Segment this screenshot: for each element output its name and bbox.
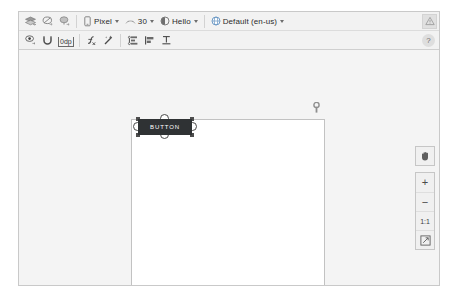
clear-constraints-icon[interactable] [83, 32, 100, 48]
chevron-down-icon [150, 20, 154, 23]
canvas-top-marker-glyph [312, 102, 321, 114]
toolbar-separator-4 [120, 34, 121, 47]
zoom-out-label: − [422, 197, 428, 208]
guidelines-icon[interactable] [124, 32, 141, 48]
infer-constraints-icon[interactable] [100, 32, 117, 48]
theme-selector[interactable]: Hello [157, 13, 201, 29]
magic-wand-glyph [102, 34, 115, 47]
orientation-glyph [58, 15, 71, 28]
clear-constraints-glyph [85, 34, 98, 47]
toolbar-separator-2 [204, 15, 205, 28]
baseline-icon[interactable] [158, 32, 175, 48]
button-widget-label: BUTTON [138, 119, 192, 135]
api-selector[interactable]: 30 [122, 13, 157, 29]
design-surface[interactable]: BUTTON + − 1:1 [19, 50, 439, 285]
constraint-toolbar: 0dp [19, 31, 439, 50]
zoom-controls: + − 1:1 [415, 146, 435, 250]
design-mode-glyph [24, 15, 37, 28]
warning-triangle-icon [425, 16, 435, 26]
api-level-icon [125, 17, 136, 26]
help-icon: ? [422, 34, 435, 47]
locale-selector-label: Default (en-us) [223, 17, 277, 26]
blueprint-mode-icon[interactable] [39, 13, 56, 29]
device-phone-icon [83, 16, 92, 27]
default-margin-label: 0dp [58, 37, 74, 47]
chevron-down-icon [194, 20, 198, 23]
device-selector-label: Pixel [94, 17, 112, 26]
show-constraints-glyph [24, 34, 37, 47]
canvas-top-marker [312, 100, 321, 112]
pan-hand-icon[interactable] [415, 146, 435, 166]
show-constraints-icon[interactable] [22, 32, 39, 48]
layout-editor-window: Pixel 30 Hello [18, 11, 440, 286]
autoconnect-icon[interactable] [39, 32, 56, 48]
zoom-button-stack: + − 1:1 [415, 172, 435, 250]
blueprint-mode-glyph [41, 15, 54, 28]
zoom-out-button[interactable]: − [416, 192, 434, 211]
toolbar-separator-1 [76, 15, 77, 28]
magnet-glyph [41, 34, 54, 47]
pan-hand-glyph [419, 150, 431, 162]
actual-size-button[interactable]: 1:1 [416, 211, 434, 230]
zoom-in-button[interactable]: + [416, 173, 434, 192]
zoom-in-label: + [422, 177, 428, 188]
primary-toolbar: Pixel 30 Hello [19, 12, 439, 31]
device-selector[interactable]: Pixel [80, 13, 122, 29]
warning-indicator[interactable] [422, 14, 437, 29]
theme-selector-label: Hello [172, 17, 191, 26]
chevron-down-icon [115, 20, 119, 23]
globe-icon [211, 16, 221, 26]
toolbar-separator-3 [79, 34, 80, 47]
default-margin-value[interactable]: 0dp [56, 32, 76, 48]
actual-size-label: 1:1 [420, 218, 430, 225]
design-mode-icon[interactable] [22, 13, 39, 29]
theme-icon [160, 16, 170, 26]
help-button[interactable]: ? [420, 32, 437, 48]
align-left-glyph [143, 34, 156, 47]
orientation-icon[interactable] [56, 13, 73, 29]
button-widget[interactable]: BUTTON [138, 119, 192, 135]
fit-to-screen-icon [420, 235, 431, 246]
locale-selector[interactable]: Default (en-us) [208, 13, 287, 29]
fit-to-screen-button[interactable] [416, 230, 434, 249]
baseline-glyph [160, 34, 173, 47]
align-icon[interactable] [141, 32, 158, 48]
chevron-down-icon [280, 20, 284, 23]
device-canvas[interactable] [131, 119, 325, 285]
api-selector-label: 30 [138, 17, 147, 26]
guidelines-glyph [126, 34, 139, 47]
